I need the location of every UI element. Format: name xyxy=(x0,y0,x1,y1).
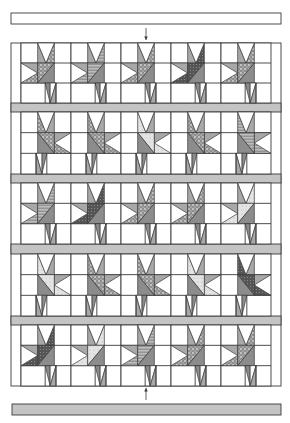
quilt-diagram xyxy=(0,0,290,423)
lily-block xyxy=(221,112,271,174)
block-row-3 xyxy=(21,183,271,244)
lily-block xyxy=(221,325,271,386)
lily-block xyxy=(21,325,71,386)
quilt-top xyxy=(11,43,281,386)
lily-block xyxy=(71,183,121,244)
arrow-up-bottom-icon xyxy=(144,388,148,400)
quilt-diagram-canvas xyxy=(0,0,290,423)
lily-block xyxy=(221,254,271,316)
lily-block xyxy=(171,112,221,174)
lily-block xyxy=(71,112,121,174)
lily-block xyxy=(171,183,221,244)
lily-block xyxy=(121,112,171,174)
lily-block xyxy=(21,43,71,103)
block-row-1 xyxy=(21,43,271,103)
lily-block xyxy=(121,43,171,103)
lily-block xyxy=(171,325,221,386)
block-row-4 xyxy=(21,254,271,316)
arrow-head xyxy=(144,388,148,392)
arrow-head xyxy=(144,37,148,41)
bottom-border-strip xyxy=(12,404,281,415)
lily-block xyxy=(121,254,171,316)
top-border-strip xyxy=(11,13,281,24)
arrow-down-top-icon xyxy=(144,28,148,40)
sashing-strip-2 xyxy=(11,174,281,183)
lily-block xyxy=(71,325,121,386)
sashing-strip-4 xyxy=(11,316,281,325)
lily-block xyxy=(221,43,271,103)
sashing-strip-1 xyxy=(11,103,281,112)
lily-block xyxy=(171,254,221,316)
lily-block xyxy=(71,254,121,316)
lily-block xyxy=(21,254,71,316)
sashing-strip-3 xyxy=(11,244,281,254)
lily-block xyxy=(171,43,221,103)
block-row-2 xyxy=(21,112,271,174)
lily-block xyxy=(121,183,171,244)
lily-block xyxy=(121,325,171,386)
lily-block xyxy=(21,112,71,174)
lily-block xyxy=(221,183,271,244)
lily-block xyxy=(21,183,71,244)
block-row-5 xyxy=(21,325,271,386)
lily-block xyxy=(71,43,121,103)
